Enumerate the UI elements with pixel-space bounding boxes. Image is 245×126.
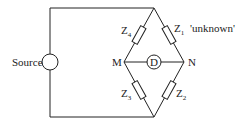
z3-label: Z3 (121, 87, 132, 102)
detector-label: D (150, 56, 158, 68)
z1-note: 'unknown' (190, 22, 235, 34)
node-n-label: N (188, 56, 196, 68)
source-label: Source (12, 56, 43, 68)
z4-label: Z4 (121, 24, 132, 39)
node-m-label: M (112, 56, 122, 68)
bridge-circuit-diagram: Source D M N Z4 Z1 'unknown' Z3 Z2 (0, 0, 245, 126)
resistor-z2 (162, 81, 176, 100)
resistor-z4 (132, 26, 146, 45)
source-icon (42, 54, 58, 70)
z1-label: Z1 (174, 22, 185, 37)
resistor-z3 (132, 81, 146, 100)
z2-label: Z2 (176, 87, 187, 102)
